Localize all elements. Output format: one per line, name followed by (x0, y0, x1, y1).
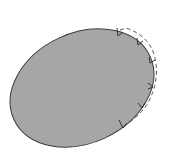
arrow-marker-icon (137, 38, 143, 45)
diagram-canvas (0, 0, 171, 161)
gray-ellipse (0, 6, 171, 161)
